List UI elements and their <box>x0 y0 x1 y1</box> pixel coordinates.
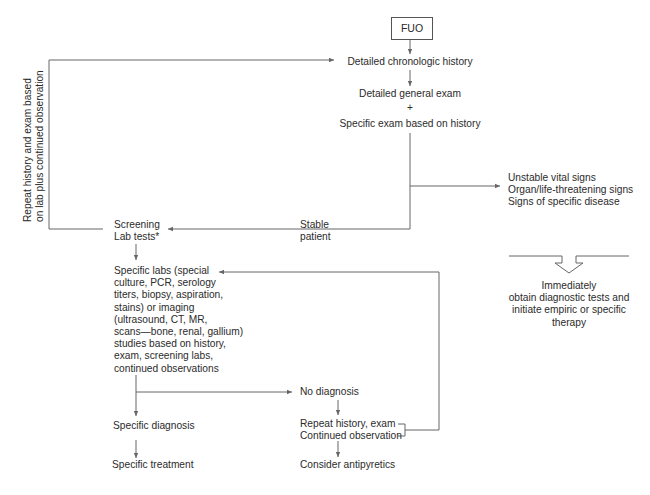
unstable-line-3: Signs of specific disease <box>508 196 633 208</box>
labs-line-8: exam, screening labs, <box>114 350 243 362</box>
labs-line-3: titers, biopsy, aspiration, <box>114 289 243 301</box>
labs-line-4: stains) or imaging <box>114 302 243 314</box>
stable-line-1: Stable <box>300 219 331 231</box>
node-screening-labs: Screening Lab tests* <box>114 219 160 243</box>
unstable-line-1: Unstable vital signs <box>508 172 633 184</box>
loop-line-2: on lab plus continued observation <box>34 70 46 222</box>
immediate-line-3: initiate empiric or specific <box>499 304 639 316</box>
node-repeat-history: Repeat history, exam Continued observati… <box>300 418 402 442</box>
screening-line-1: Screening <box>114 219 160 231</box>
labs-line-9: continued observations <box>114 363 243 375</box>
immediate-line-2: obtain diagnostic tests and <box>499 292 639 304</box>
node-specific-treatment: Specific treatment <box>112 459 194 471</box>
node-immediate-therapy: Immediately obtain diagnostic tests and … <box>499 280 639 329</box>
label-loop-repeat-history: Repeat history and exam based on lab plu… <box>22 70 46 222</box>
label-stable-patient: Stable patient <box>300 219 331 243</box>
labs-line-2: culture, PCR, serology <box>114 277 243 289</box>
repeat-line-1: Repeat history, exam <box>300 418 402 430</box>
immediate-line-1: Immediately <box>499 280 639 292</box>
node-specific-diagnosis: Specific diagnosis <box>113 420 195 432</box>
node-specific-exam: Specific exam based on history <box>325 118 495 130</box>
fuo-start-box: FUO <box>391 17 433 40</box>
labs-line-7: studies based on history, <box>114 338 243 350</box>
node-no-diagnosis: No diagnosis <box>300 386 359 398</box>
node-general-exam: Detailed general exam <box>335 88 485 100</box>
screening-line-2: Lab tests* <box>114 231 160 243</box>
stable-line-2: patient <box>300 231 331 243</box>
node-plus: + <box>335 102 485 114</box>
labs-line-1: Specific labs (special <box>114 265 243 277</box>
labs-line-5: (ultrasound, CT, MR, <box>114 314 243 326</box>
loop-line-1: Repeat history and exam based <box>22 70 34 222</box>
node-consider-antipyretics: Consider antipyretics <box>300 459 395 471</box>
immediate-line-4: therapy <box>499 317 639 329</box>
unstable-line-2: Organ/life-threatening signs <box>508 184 633 196</box>
labs-line-6: scans—bone, renal, gallium) <box>114 326 243 338</box>
node-detailed-history: Detailed chronologic history <box>335 56 485 68</box>
node-unstable: Unstable vital signs Organ/life-threaten… <box>508 172 633 209</box>
repeat-line-2: Continued observation <box>300 430 402 442</box>
node-specific-labs: Specific labs (special culture, PCR, ser… <box>114 265 243 375</box>
